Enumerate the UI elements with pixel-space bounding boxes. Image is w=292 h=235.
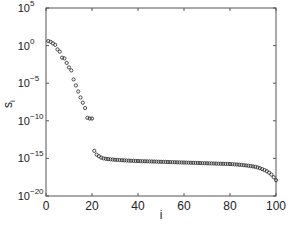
x-tick-label: 0 — [43, 199, 50, 213]
data-point — [74, 84, 77, 87]
data-point — [77, 90, 80, 93]
data-point — [81, 101, 84, 104]
x-tick-label: 100 — [266, 199, 286, 213]
x-tick-label: 20 — [85, 199, 99, 213]
chart: 020406080100 10510010−510−1010−1510−20 i… — [0, 0, 292, 235]
data-point — [65, 61, 68, 64]
x-axis-label: i — [160, 208, 163, 222]
y-tick-label: 10 — [18, 2, 30, 14]
data-series — [47, 39, 278, 181]
y-tick-exponent: −10 — [30, 112, 44, 121]
y-tick-exponent: −15 — [30, 149, 44, 158]
x-tick-label: 80 — [223, 199, 237, 213]
data-point — [90, 117, 93, 120]
x-tick-label: 60 — [177, 199, 191, 213]
y-tick-exponent: −20 — [30, 187, 44, 196]
data-point — [58, 50, 61, 53]
svg-text:si: si — [1, 100, 17, 108]
x-tick-label: 40 — [131, 199, 145, 213]
data-point — [84, 106, 87, 109]
plot-area — [46, 8, 276, 196]
data-point — [93, 149, 96, 152]
data-point — [67, 66, 70, 69]
y-tick-exponent: 0 — [30, 37, 35, 46]
y-tick-label: 10 — [18, 115, 30, 127]
data-point — [272, 176, 275, 179]
y-tick-exponent: 5 — [30, 0, 35, 8]
y-tick-label: 10 — [18, 77, 30, 89]
data-point — [79, 96, 82, 99]
y-tick-label: 10 — [18, 152, 30, 164]
x-axis: 020406080100 — [43, 8, 287, 213]
y-tick-exponent: −5 — [30, 74, 40, 83]
y-tick-label: 10 — [18, 40, 30, 52]
y-axis-label: si — [1, 100, 17, 108]
data-point — [70, 69, 73, 72]
y-tick-label: 10 — [18, 190, 30, 202]
y-axis: 10510010−510−1010−1510−20 — [18, 0, 276, 202]
data-point — [72, 78, 75, 81]
